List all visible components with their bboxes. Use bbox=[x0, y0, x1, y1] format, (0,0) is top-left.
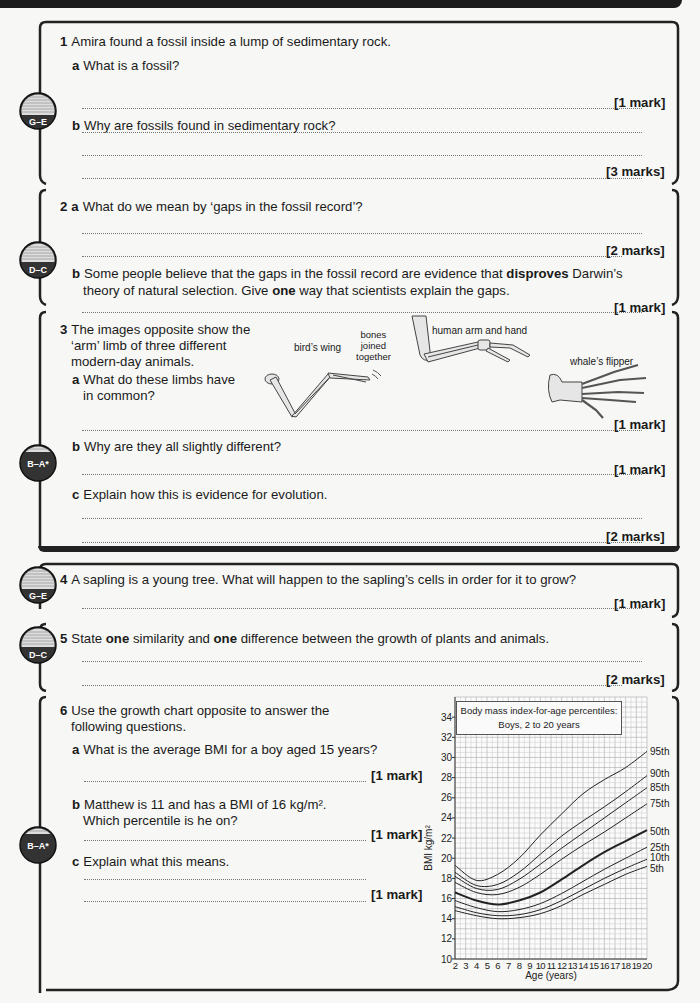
question-5: 5State one similarity and one difference… bbox=[38, 622, 680, 692]
answer-line-6b[interactable] bbox=[84, 840, 366, 841]
question-3: 3The images opposite show the‘arm’ limb … bbox=[38, 310, 680, 548]
question-3-intro: 3The images opposite show the‘arm’ limb … bbox=[60, 322, 250, 370]
svg-text:BMI kg/m²: BMI kg/m² bbox=[423, 825, 434, 871]
svg-text:5: 5 bbox=[485, 960, 490, 971]
page-header-bar bbox=[0, 0, 682, 8]
svg-text:18: 18 bbox=[441, 873, 453, 884]
svg-text:34: 34 bbox=[441, 712, 453, 723]
answer-line-6c-2[interactable] bbox=[84, 901, 366, 902]
question-1-intro: 1Amira found a fossil inside a lump of s… bbox=[60, 33, 391, 50]
svg-text:24: 24 bbox=[441, 812, 453, 823]
answer-line-3b[interactable] bbox=[82, 474, 642, 475]
answer-line-3c-1[interactable] bbox=[82, 518, 642, 519]
svg-text:28: 28 bbox=[441, 772, 453, 783]
svg-text:10: 10 bbox=[441, 954, 453, 965]
question-6-intro: 6Use the growth chart opposite to answer… bbox=[60, 703, 329, 735]
svg-text:10th: 10th bbox=[650, 852, 669, 863]
question-2a: 2aWhat do we mean by ‘gaps in the fossil… bbox=[60, 198, 363, 215]
answer-line-6c-1[interactable] bbox=[84, 879, 366, 880]
svg-text:16: 16 bbox=[441, 893, 453, 904]
svg-text:50th: 50th bbox=[650, 826, 669, 837]
marks-2a: [2 marks] bbox=[606, 243, 665, 258]
svg-text:2: 2 bbox=[453, 960, 458, 971]
svg-text:G–E: G–E bbox=[29, 117, 47, 127]
answer-line-1b-1[interactable] bbox=[82, 132, 642, 133]
section-divider bbox=[38, 546, 680, 552]
answer-line-5-2[interactable] bbox=[82, 685, 622, 686]
svg-text:18: 18 bbox=[621, 960, 631, 971]
svg-text:B–A*: B–A* bbox=[27, 459, 49, 469]
svg-text:85th: 85th bbox=[650, 782, 669, 793]
bird-wing-label: bird’s wing bbox=[294, 342, 341, 353]
svg-text:D–C: D–C bbox=[29, 650, 48, 660]
svg-text:G–E: G–E bbox=[29, 591, 47, 601]
svg-text:20: 20 bbox=[642, 960, 652, 971]
marks-6c: [1 mark] bbox=[371, 887, 422, 902]
marks-1a: [1 mark] bbox=[614, 95, 665, 110]
marks-4: [1 mark] bbox=[614, 596, 665, 611]
svg-text:14: 14 bbox=[441, 913, 453, 924]
grade-badge-ba: B–A* bbox=[19, 444, 57, 482]
question-4: 4A sapling is a young tree. What will ha… bbox=[60, 571, 576, 588]
question-5: 5State one similarity and one difference… bbox=[60, 630, 549, 647]
grade-badge-ge: G–E bbox=[19, 92, 57, 130]
whale-flipper-illustration bbox=[548, 365, 646, 418]
chart-title: Body mass index-for-age percentiles: bbox=[461, 705, 618, 716]
svg-text:95th: 95th bbox=[650, 746, 669, 757]
answer-line-2a-1[interactable] bbox=[82, 233, 642, 234]
chart-subtitle: Boys, 2 to 20 years bbox=[498, 719, 579, 730]
marks-3c: [2 marks] bbox=[606, 529, 665, 544]
svg-text:8: 8 bbox=[517, 960, 522, 971]
marks-6a: [1 mark] bbox=[371, 768, 422, 783]
svg-text:16: 16 bbox=[600, 960, 610, 971]
answer-line-3a[interactable] bbox=[82, 430, 642, 431]
svg-text:B–A*: B–A* bbox=[27, 841, 49, 851]
answer-line-2a-2[interactable] bbox=[82, 256, 622, 257]
svg-text:Age (years): Age (years) bbox=[525, 970, 577, 981]
grade-badge-ge: G–E bbox=[19, 566, 57, 604]
question-3b: bWhy are they all slightly different? bbox=[72, 438, 281, 455]
svg-text:75th: 75th bbox=[650, 798, 669, 809]
question-2: 2aWhat do we mean by ‘gaps in the fossil… bbox=[38, 188, 680, 306]
answer-line-1b-2[interactable] bbox=[82, 155, 642, 156]
answer-line-3c-2[interactable] bbox=[82, 542, 642, 543]
answer-line-4[interactable] bbox=[82, 608, 642, 609]
question-3a: aWhat do these limbs havein common? bbox=[72, 372, 235, 404]
svg-text:30: 30 bbox=[441, 752, 453, 763]
svg-text:20: 20 bbox=[441, 853, 453, 864]
svg-text:4: 4 bbox=[474, 960, 479, 971]
svg-text:14: 14 bbox=[578, 960, 588, 971]
marks-3b: [1 mark] bbox=[614, 462, 665, 477]
question-4: 4A sapling is a young tree. What will ha… bbox=[38, 562, 680, 618]
marks-5: [2 marks] bbox=[606, 672, 665, 687]
svg-text:3: 3 bbox=[463, 960, 468, 971]
svg-text:19: 19 bbox=[632, 960, 642, 971]
grade-badge-dc: D–C bbox=[19, 626, 57, 664]
marks-1b: [3 marks] bbox=[606, 164, 665, 179]
question-1: 1Amira found a fossil inside a lump of s… bbox=[38, 20, 680, 185]
human-arm-illustration bbox=[412, 316, 530, 362]
question-1a: aWhat is a fossil? bbox=[72, 57, 179, 74]
answer-line-6a[interactable] bbox=[84, 781, 366, 782]
marks-6b: [1 mark] bbox=[371, 827, 422, 842]
answer-line-1a[interactable] bbox=[82, 108, 642, 109]
svg-text:32: 32 bbox=[441, 732, 453, 743]
question-2b: bSome people believe that the gaps in th… bbox=[72, 265, 623, 299]
question-3c: cExplain how this is evidence for evolut… bbox=[72, 486, 327, 503]
svg-text:12: 12 bbox=[441, 933, 453, 944]
bird-wing-illustration bbox=[265, 370, 381, 417]
svg-text:7: 7 bbox=[506, 960, 511, 971]
svg-text:90th: 90th bbox=[650, 768, 669, 779]
question-6a: aWhat is the average BMI for a boy aged … bbox=[72, 741, 377, 758]
svg-text:5th: 5th bbox=[650, 863, 664, 874]
svg-text:D–C: D–C bbox=[29, 265, 48, 275]
svg-text:22: 22 bbox=[441, 833, 453, 844]
whale-flipper-label: whale’s flipper bbox=[570, 356, 633, 367]
svg-text:6: 6 bbox=[495, 960, 500, 971]
question-6c: cExplain what this means. bbox=[72, 853, 229, 870]
answer-line-1b-3[interactable] bbox=[82, 178, 642, 179]
svg-text:15: 15 bbox=[589, 960, 599, 971]
answer-line-5-1[interactable] bbox=[82, 661, 642, 662]
svg-text:26: 26 bbox=[441, 792, 453, 803]
bmi-growth-chart: 1012141618202224262830323423456789101112… bbox=[418, 690, 680, 990]
